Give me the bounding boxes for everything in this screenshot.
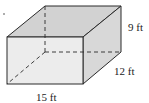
- stray-dot: [3, 13, 5, 15]
- rectangular-prism-diagram: 9 ft 12 ft 15 ft: [0, 0, 149, 103]
- width-label: 15 ft: [36, 91, 56, 103]
- height-label: 9 ft: [128, 21, 143, 33]
- depth-label: 12 ft: [114, 65, 134, 77]
